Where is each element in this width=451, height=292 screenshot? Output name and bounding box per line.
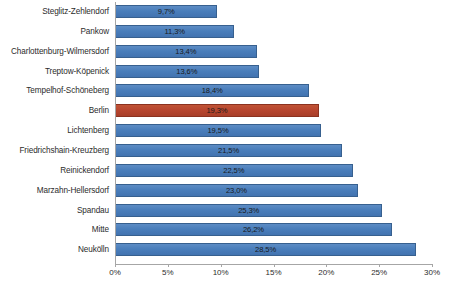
axis-tick-label: 25%: [359, 267, 399, 278]
category-label: Mitte: [92, 223, 109, 236]
bar-value-label: 28,5%: [115, 243, 416, 256]
category-label: Steglitz-Zehlendorf: [42, 5, 109, 18]
category-label: Marzahn-Hellersdorf: [37, 184, 109, 197]
bar-row[interactable]: 28,5%: [115, 243, 432, 256]
bar-row[interactable]: 26,2%: [115, 223, 432, 236]
value-axis-line: [115, 2, 116, 265]
bar-value-label: 21,5%: [115, 144, 342, 157]
category-label: Spandau: [77, 204, 109, 217]
bar-chart: Steglitz-ZehlendorfPankowCharlottenburg-…: [0, 0, 451, 292]
bar-value-label: 19,5%: [115, 124, 321, 137]
plot-area: 9,7%11,3%13,4%13,6%18,4%19,3%19,5%21,5%2…: [115, 0, 432, 264]
bar-value-label: 25,3%: [115, 204, 382, 217]
bar-value-label: 13,4%: [115, 45, 257, 58]
bar-value-label: 9,7%: [115, 5, 217, 18]
bar-value-label: 11,3%: [115, 25, 234, 38]
bar-row[interactable]: 13,4%: [115, 45, 432, 58]
category-label: Tempelhof-Schöneberg: [26, 84, 109, 97]
bar-row[interactable]: 18,4%: [115, 84, 432, 97]
bar-row[interactable]: 11,3%: [115, 25, 432, 38]
category-label: Treptow-Köpenick: [45, 65, 109, 78]
bar-row[interactable]: 22,5%: [115, 164, 432, 177]
axis-tick-label: 0%: [95, 267, 135, 278]
bar-value-label: 13,6%: [115, 65, 259, 78]
axis-tick-label: 20%: [306, 267, 346, 278]
bar-row[interactable]: 9,7%: [115, 5, 432, 18]
bar-row[interactable]: 19,3%: [115, 104, 432, 117]
category-label: Pankow: [80, 25, 109, 38]
category-label: Lichtenberg: [67, 124, 109, 137]
axis-tick-label: 5%: [148, 267, 188, 278]
category-label: Friedrichshain-Kreuzberg: [19, 144, 109, 157]
axis-tick-label: 10%: [201, 267, 241, 278]
bar-row[interactable]: 19,5%: [115, 124, 432, 137]
bar-value-label: 23,0%: [115, 184, 358, 197]
axis-tick-label: 30%: [412, 267, 451, 278]
bar-row[interactable]: 21,5%: [115, 144, 432, 157]
category-label: Charlottenburg-Wilmersdorf: [11, 45, 109, 58]
category-label: Neukölln: [78, 243, 109, 256]
bar-value-label: 26,2%: [115, 223, 392, 236]
bar-row[interactable]: 25,3%: [115, 204, 432, 217]
bar-value-label: 18,4%: [115, 84, 309, 97]
bar-value-label: 19,3%: [115, 104, 319, 117]
bar-value-label: 22,5%: [115, 164, 353, 177]
category-label: Berlin: [89, 104, 109, 117]
axis-tick-label: 15%: [254, 267, 294, 278]
bar-row[interactable]: 13,6%: [115, 65, 432, 78]
bar-row[interactable]: 23,0%: [115, 184, 432, 197]
category-axis-labels: Steglitz-ZehlendorfPankowCharlottenburg-…: [0, 0, 112, 264]
category-label: Reinickendorf: [60, 164, 109, 177]
